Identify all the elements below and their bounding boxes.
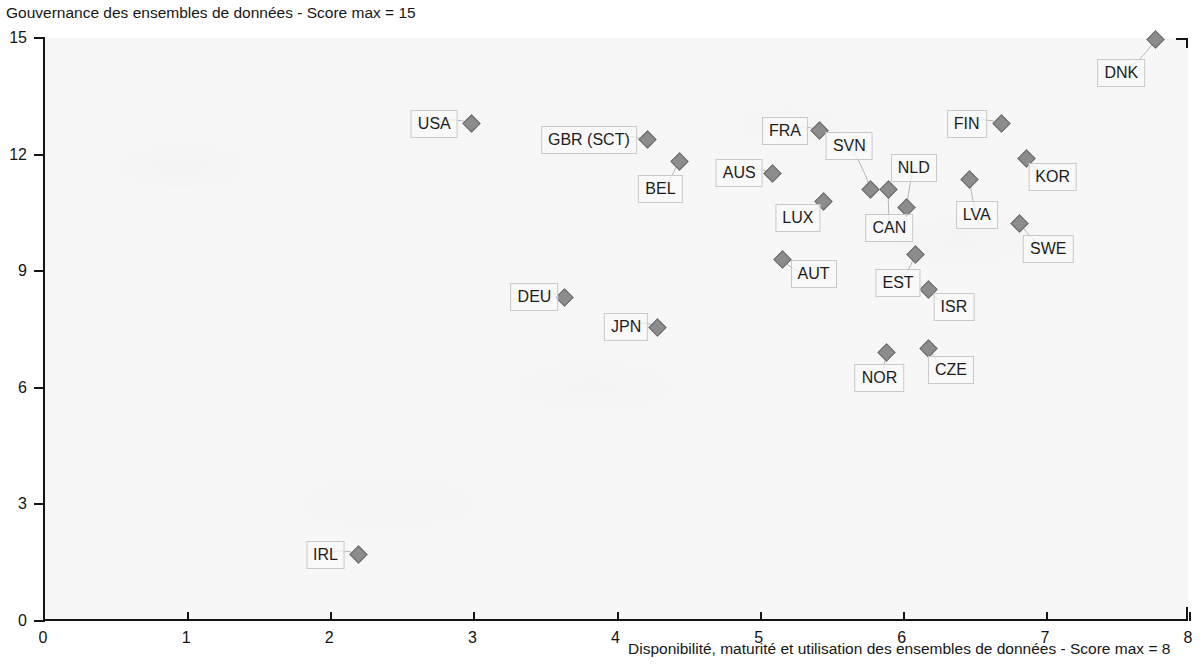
x-tick [187, 612, 189, 621]
data-point-label: LVA [956, 201, 998, 229]
data-point-marker [462, 115, 480, 133]
x-tick-label: 0 [23, 630, 63, 646]
y-tick-label: 12 [0, 147, 27, 163]
data-point-marker [763, 164, 781, 182]
data-point-label: LUX [775, 204, 820, 232]
data-point-marker [670, 152, 688, 170]
data-point-label: FIN [947, 110, 987, 138]
y-tick [34, 37, 45, 39]
y-tick-label: 6 [0, 380, 27, 396]
plot-area: DNKUSAFINFRAGBR (SCT)SVNKORBELNLDAUSLVAC… [43, 38, 1188, 621]
y-tick-label: 3 [0, 496, 27, 512]
data-point-marker [877, 343, 895, 361]
data-point-label: CZE [928, 356, 974, 384]
data-point-label: DNK [1097, 59, 1145, 87]
data-point-marker [992, 115, 1010, 133]
x-tick-label: 8 [1168, 630, 1204, 646]
data-point-label: ISR [934, 293, 975, 321]
data-point-label: GBR (SCT) [541, 126, 637, 154]
data-point-label: USA [411, 110, 458, 138]
y-tick [34, 154, 45, 156]
data-point-marker [648, 318, 666, 336]
data-point-marker [773, 251, 791, 269]
x-tick [903, 612, 905, 621]
x-tick [617, 612, 619, 621]
y-tick [34, 620, 45, 622]
y-tick-label: 0 [0, 613, 27, 629]
data-point-marker [879, 181, 897, 199]
x-tick-label: 3 [452, 630, 492, 646]
x-tick [330, 612, 332, 621]
y-axis-title: Gouvernance des ensembles de données - S… [6, 4, 416, 21]
y-tick [34, 387, 45, 389]
x-tick [760, 612, 762, 621]
data-point-marker [1146, 31, 1164, 49]
data-point-marker [638, 131, 656, 149]
data-point-label: AUT [791, 260, 837, 288]
x-tick [1189, 612, 1191, 621]
data-point-label: SWE [1023, 235, 1073, 263]
data-point-marker [862, 180, 880, 198]
x-tick-label: 1 [166, 630, 206, 646]
axis-corner-top-right-vertical [1186, 38, 1188, 48]
data-point-label: NOR [855, 364, 905, 392]
data-point-label: EST [875, 269, 920, 297]
y-tick [34, 503, 45, 505]
data-point-marker [919, 339, 937, 357]
data-point-label: KOR [1028, 163, 1077, 191]
data-point-label: NLD [891, 154, 937, 182]
data-point-label: SVN [826, 132, 873, 160]
data-point-marker [1010, 214, 1028, 232]
data-point-marker [960, 171, 978, 189]
data-point-label: BEL [638, 175, 682, 203]
y-tick-label: 9 [0, 263, 27, 279]
data-point-marker [906, 246, 924, 264]
data-point-label: AUS [716, 159, 763, 187]
scatter-chart: Gouvernance des ensembles de données - S… [0, 0, 1204, 664]
data-point-marker [349, 546, 367, 564]
x-tick [1046, 612, 1048, 621]
data-point-label: JPN [604, 313, 648, 341]
data-point-label: IRL [306, 541, 345, 569]
x-tick [473, 612, 475, 621]
data-point-label: CAN [866, 214, 914, 242]
x-axis-title: Disponibilité, maturité et utilisation d… [628, 640, 1170, 657]
data-point-label: FRA [762, 117, 808, 145]
x-tick-label: 2 [309, 630, 349, 646]
y-tick [34, 270, 45, 272]
axis-corner-bottom-right-vertical [1186, 607, 1188, 619]
y-tick-label: 15 [0, 30, 27, 46]
data-point-label: DEU [511, 283, 559, 311]
